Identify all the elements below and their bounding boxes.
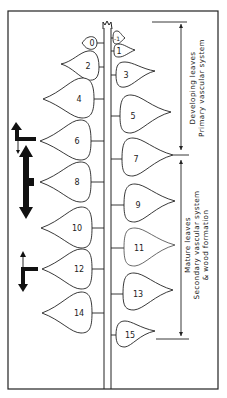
leaf-14: 14 — [42, 292, 104, 333]
leaf-15: 15 — [111, 321, 155, 347]
bracket-developing: Developing leaves Primary vascular syste… — [152, 22, 206, 155]
leaf-label: -1 — [114, 35, 120, 42]
arrow-leaf-12-icon — [18, 251, 38, 292]
growth-arrows — [11, 122, 38, 292]
leaf-label: 14 — [74, 309, 84, 318]
leaf-12: 12 — [42, 249, 104, 289]
leaf-label: 15 — [125, 331, 135, 340]
leaf-10: 10 — [41, 207, 104, 248]
leaf-7: 7 — [111, 138, 173, 176]
right-leaves: -1 1 3 5 7 9 — [111, 31, 175, 347]
leaf-11: 11 — [111, 228, 175, 266]
double-arrow-leaf-8-icon — [19, 145, 34, 219]
wood-formation-label: & wood formation — [201, 210, 210, 281]
stem — [103, 21, 112, 389]
leaf-label: 8 — [74, 178, 79, 187]
leaf-3: 3 — [111, 62, 155, 87]
primary-vascular-label: Primary vascular system — [197, 39, 206, 137]
shoot-apex — [103, 21, 112, 29]
leaf-minus-1: -1 — [111, 31, 125, 44]
leaf-label: 10 — [72, 224, 82, 233]
leaf-8: 8 — [40, 162, 104, 202]
leaf-5: 5 — [111, 95, 171, 133]
leaf-9: 9 — [111, 184, 175, 222]
leaf-label: 12 — [74, 265, 84, 274]
leaf-label: 9 — [135, 201, 140, 210]
leaf-development-diagram: 0 2 4 6 8 10 — [0, 0, 227, 398]
secondary-vascular-label: Secondary vascular system — [192, 191, 201, 300]
leaf-2: 2 — [61, 51, 104, 80]
developing-leaves-label: Developing leaves — [188, 51, 197, 124]
leaf-4: 4 — [43, 78, 104, 118]
leaf-label: 6 — [74, 137, 79, 146]
leaf-label: 5 — [130, 112, 135, 121]
arrow-leaf-6-icon — [11, 122, 36, 154]
left-leaves: 0 2 4 6 8 10 — [40, 37, 104, 333]
leaf-label: 3 — [123, 71, 128, 80]
mature-leaves-label: Mature leaves — [183, 217, 192, 273]
leaf-label: 2 — [85, 62, 90, 71]
leaf-label: 4 — [76, 95, 81, 104]
leaf-label: 0 — [89, 39, 94, 48]
leaf-1: 1 — [111, 44, 135, 57]
leaf-label: 11 — [134, 244, 144, 253]
leaf-13: 13 — [111, 273, 173, 310]
leaf-label: 13 — [133, 290, 143, 299]
leaf-6: 6 — [40, 120, 104, 160]
leaf-0: 0 — [82, 37, 104, 50]
leaf-label: 7 — [133, 155, 138, 164]
diagram-frame — [8, 11, 218, 389]
leaf-label: 1 — [116, 47, 121, 56]
